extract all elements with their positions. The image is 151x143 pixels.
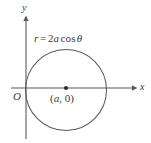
y-axis-label: y — [22, 3, 26, 13]
equation-cos: cos — [60, 32, 75, 44]
polar-circle-figure: r=2a cos θ x y O (a, 0) — [0, 0, 151, 143]
equation-label: r=2a cos θ — [34, 33, 82, 44]
x-axis-label: x — [140, 82, 144, 92]
center-label-rest: , 0) — [59, 92, 74, 104]
equation-a: a — [54, 32, 60, 44]
center-point-label: (a, 0) — [50, 93, 74, 104]
center-point-dot — [64, 86, 68, 90]
figure-canvas — [0, 0, 151, 143]
origin-label: O — [13, 91, 21, 102]
equation-theta: θ — [77, 32, 83, 44]
equation-equals: = — [38, 32, 47, 44]
